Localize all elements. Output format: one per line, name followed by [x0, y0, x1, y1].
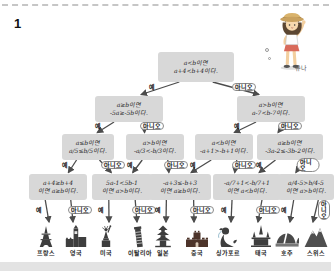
decision-box-text: 이면 a≥b이다. [160, 187, 200, 195]
statue-of-liberty-icon [93, 224, 119, 248]
yes-branch-label: 예 [36, 207, 42, 213]
decision-box-row3-0: a+4≥b+4이면 a≥b이다. [29, 174, 87, 200]
decision-box-text: a/4-5>b/4-5 [288, 179, 324, 187]
decision-box-row3-3: -a/7+1<-b/7+1이면 a<b이다. [213, 174, 281, 200]
merlion-icon [215, 224, 241, 248]
pagoda-icon [150, 224, 176, 248]
destination-label: 미국 [90, 248, 122, 257]
decision-box-row3-1: 5a-1<5b-1이면 a>b이다. [92, 174, 152, 200]
yes-branch-label: 예 [281, 207, 287, 213]
decision-box-text: a/5≤b/5이다. [69, 147, 107, 155]
decision-box-text: a>b이면 [259, 101, 283, 109]
character-name-label: 유나 [295, 63, 307, 72]
yes-branch-label: 예 [221, 207, 227, 213]
decision-box-text: -a+3≤-b+3 [163, 179, 197, 187]
decision-box-text: -a/7+1<-b/7+1 [224, 179, 270, 187]
decision-box-text: -a+1>-b+1이다. [200, 147, 248, 155]
destination-label: 중국 [181, 248, 213, 257]
decision-box-text: a≥b이면 [117, 101, 141, 109]
decision-box-text: -3a-2≤-3b-2이다. [265, 147, 315, 155]
yes-branch-label: 예 [256, 162, 262, 168]
destination-7: 싱가포르 [212, 224, 244, 257]
no-branch-label: 아니오 [164, 161, 188, 169]
no-branch-label: 아니오 [232, 83, 256, 91]
destination-label: 호주 [271, 248, 303, 257]
no-branch-label: 아니오 [278, 122, 302, 130]
destination-label: 일본 [147, 248, 179, 257]
decision-box-text: 이면 a>b이다. [286, 187, 326, 195]
decision-box-text: -a/3<-b/3이다. [134, 147, 176, 155]
decision-box-text: a+4<b+4이다. [174, 67, 218, 75]
decision-box-text: a≤b이면 [76, 139, 100, 147]
great-wall-icon [184, 224, 210, 248]
no-branch-label: 아니오 [132, 206, 156, 214]
decision-box-row3-2: -a+3≤-b+3이면 a≥b이다. [149, 174, 211, 200]
no-branch-label: 아니오 [190, 206, 214, 214]
decision-box-text: a+4≥b+4 [43, 179, 73, 187]
no-branch-label: 아니오 [232, 161, 256, 169]
speech-dot [268, 57, 271, 60]
no-branch-label: 아니오 [68, 206, 92, 214]
decision-box-row1-0: a≥b이면-5a≥-5b이다. [95, 96, 163, 122]
eiffel-tower-icon [33, 224, 59, 248]
decision-box-row2-2: a<b이면-a+1>-b+1이다. [195, 134, 253, 160]
no-branch-label: 아니오 [101, 161, 125, 169]
speech-dot [265, 48, 269, 52]
yes-branch-label: 예 [95, 123, 101, 129]
destination-label: 스위스 [300, 248, 332, 257]
matterhorn-icon [303, 224, 329, 248]
decision-box-row2-0: a≤b이면a/5≤b/5이다. [62, 134, 114, 160]
destination-9: 호주 [271, 224, 303, 257]
yes-branch-label: 예 [234, 123, 240, 129]
opera-house-icon [274, 224, 300, 248]
destination-6: 중국 [181, 224, 213, 257]
no-branch-label: 아니오 [256, 206, 280, 214]
decision-box-text: a-7<b-7이다. [252, 109, 290, 117]
yes-branch-label: 예 [98, 207, 104, 213]
decision-box-row1-1: a>b이면a-7<b-7이다. [237, 96, 305, 122]
decision-box-text: a≥b이면 [278, 139, 302, 147]
decision-box-row2-1: a>b이면-a/3<-b/3이다. [126, 134, 184, 160]
yes-branch-label: 예 [149, 84, 155, 90]
destination-3: 미국 [90, 224, 122, 257]
destination-label: 프랑스 [30, 248, 62, 257]
decision-box-row2-3: a≥b이면-3a-2≤-3b-2이다. [257, 134, 323, 160]
decision-box-root-0: a<b이면a+4<b+4이다. [158, 52, 234, 82]
yes-branch-label: 예 [190, 162, 196, 168]
decision-box-text: 이면 a>b이다. [102, 187, 142, 195]
yes-branch-label: 예 [62, 162, 68, 168]
destination-5: 일본 [147, 224, 179, 257]
big-ben-icon [63, 224, 89, 248]
destination-1: 프랑스 [30, 224, 62, 257]
no-branch-label: 아니오 [297, 158, 320, 172]
yes-branch-label: 예 [155, 207, 161, 213]
yes-branch-label: 예 [127, 162, 133, 168]
decision-box-text: a<b이면 [184, 59, 208, 67]
decision-box-text: -5a≥-5b이다. [110, 109, 148, 117]
destination-2: 영국 [60, 224, 92, 257]
no-branch-label: 아니오 [318, 200, 330, 220]
decision-box-text: a<b이면 [212, 139, 236, 147]
no-branch-label: 아니오 [140, 122, 164, 130]
decision-box-row3-4: a/4-5>b/4-5이면 a>b이다. [278, 174, 334, 200]
decision-box-text: a>b이면 [143, 139, 167, 147]
destination-label: 싱가포르 [212, 248, 244, 257]
destination-10: 스위스 [300, 224, 332, 257]
decision-box-text: 이면 a<b이다. [227, 187, 267, 195]
decision-box-text: 이면 a≥b이다. [38, 187, 78, 195]
decision-box-text: 5a-1<5b-1 [106, 179, 138, 187]
destination-label: 영국 [60, 248, 92, 257]
